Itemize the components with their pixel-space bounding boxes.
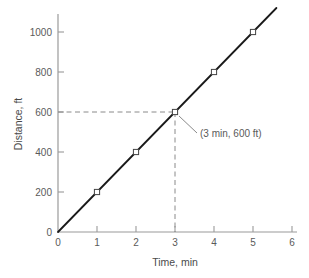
- y-tick-label: 400: [35, 147, 52, 158]
- x-tick-label: 5: [250, 237, 256, 248]
- x-tick-label: 4: [211, 237, 217, 248]
- data-point-marker: [94, 189, 99, 194]
- y-tick-label: 600: [35, 107, 52, 118]
- data-point-marker: [172, 109, 177, 114]
- chart-canvas: 0123456 02004006008001000 (3 min, 600 ft…: [0, 0, 309, 278]
- y-tick-label: 1000: [30, 27, 53, 38]
- x-tick-label: 6: [289, 237, 295, 248]
- x-tick-label: 0: [55, 237, 61, 248]
- chart-figure: 0123456 02004006008001000 (3 min, 600 ft…: [0, 0, 309, 278]
- x-tick-label: 1: [94, 237, 100, 248]
- annotation-label: (3 min, 600 ft): [200, 128, 262, 139]
- data-point-marker: [211, 69, 216, 74]
- y-tick-label: 800: [35, 67, 52, 78]
- y-tick-label: 200: [35, 187, 52, 198]
- data-point-marker: [133, 149, 138, 154]
- x-tick-label: 3: [172, 237, 178, 248]
- y-axis-title: Distance, ft: [12, 98, 24, 151]
- y-tick-label: 0: [46, 227, 52, 238]
- data-point-marker: [250, 29, 255, 34]
- x-axis-title: Time, min: [152, 256, 198, 268]
- x-tick-label: 2: [133, 237, 139, 248]
